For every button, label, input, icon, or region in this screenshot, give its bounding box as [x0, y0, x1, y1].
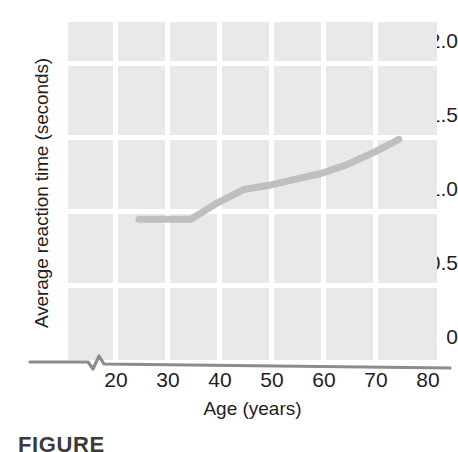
- x-tick-label-60: 60: [302, 369, 346, 390]
- x-tick-label-40: 40: [198, 369, 242, 390]
- x-tick-label-20: 20: [94, 369, 138, 390]
- data-series-layer: [68, 22, 437, 360]
- x-tick-label-80: 80: [406, 369, 450, 390]
- x-tick-label-30: 30: [146, 369, 190, 390]
- figure-caption: FIGURE: [18, 432, 105, 452]
- data-line-average-reaction-time: [139, 139, 399, 219]
- x-axis-title: Age (years): [68, 398, 437, 420]
- x-tick-label-50: 50: [250, 369, 294, 390]
- y-axis-title: Average reaction time (seconds): [31, 23, 53, 363]
- plot-area: [68, 22, 437, 360]
- figure-container: Average reaction time (seconds) 2.0 1.5 …: [0, 0, 458, 452]
- x-tick-label-70: 70: [354, 369, 398, 390]
